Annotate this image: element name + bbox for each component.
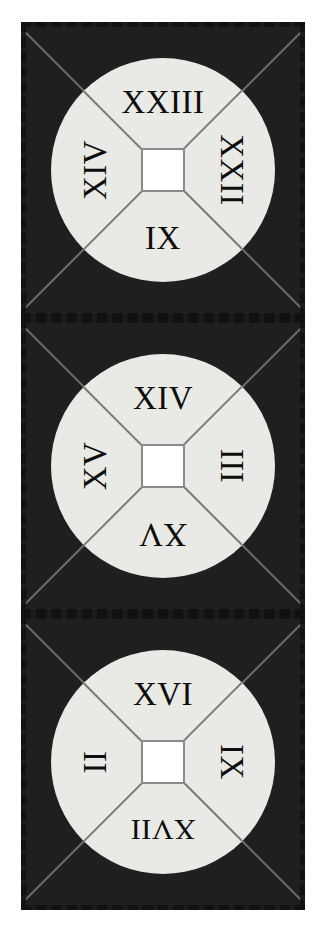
panel-3-center-square [141, 740, 185, 784]
panel-3-background: XVI IX XVII II [26, 619, 300, 905]
panel-2-numeral-top: XIV [133, 382, 193, 415]
panel-2-background: XIV III XV XV [26, 323, 300, 609]
panel-1-numeral-top: XXIII [121, 86, 204, 119]
panel-3-numeral-top: XVI [133, 678, 193, 711]
dial-panel-2: XIV III XV XV [21, 318, 305, 614]
dial-panel-1: XXIII XXII IX XIV [21, 22, 305, 318]
stacked-dial-figure: XXIII XXII IX XIV XIV III XV XV [0, 0, 326, 931]
panel-2-center-square [141, 444, 185, 488]
panel-3-numeral-bottom: XVII [130, 815, 195, 845]
panel-3-numeral-left: II [79, 751, 112, 774]
panel-1-numeral-left: XIV [79, 140, 112, 200]
panel-1-numeral-bottom: IX [145, 222, 181, 255]
panel-2-numeral-right: III [215, 449, 248, 483]
panel-1-center-square [141, 148, 185, 192]
panel-1-numeral-right: XXII [215, 134, 248, 206]
panel-2-numeral-bottom: XV [139, 518, 188, 551]
panel-3-numeral-right: IX [215, 744, 248, 780]
panel-1-background: XXIII XXII IX XIV [26, 27, 300, 313]
dial-panel-3: XVI IX XVII II [21, 614, 305, 910]
panel-2-numeral-left: XV [79, 442, 112, 491]
